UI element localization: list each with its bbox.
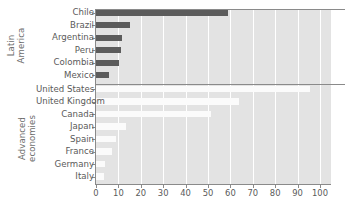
bar	[96, 98, 239, 104]
gridline	[208, 10, 209, 84]
group-label-advanced-economies: Advanced economies	[18, 101, 37, 177]
category-labels: ChileBrazilArgentinaPeruColombiaMexicoUn…	[36, 9, 94, 184]
category-label: United Kingdom	[36, 97, 94, 106]
category-label: Colombia	[36, 58, 94, 67]
category-label: Peru	[36, 46, 94, 55]
bar	[96, 72, 109, 78]
bar	[96, 22, 130, 28]
bar	[96, 148, 112, 154]
bar	[96, 60, 119, 66]
gridline	[230, 10, 231, 84]
x-axis-ticks: 0102030405060708090100	[0, 185, 331, 205]
category-label: France	[36, 147, 94, 156]
x-tick-label: 100	[305, 189, 335, 198]
category-label: Italy	[36, 172, 94, 181]
bar	[96, 161, 105, 167]
category-label: Japan	[36, 122, 94, 131]
category-label: Argentina	[36, 33, 94, 42]
gridline	[186, 10, 187, 84]
group-label-latin-america: Latin America	[7, 16, 26, 76]
group-divider-line	[95, 84, 345, 85]
gridline	[298, 10, 299, 84]
bar	[96, 111, 211, 117]
gridline	[320, 85, 321, 184]
gridline	[253, 10, 254, 84]
gridline	[253, 85, 254, 184]
bar	[96, 47, 121, 53]
bar	[96, 10, 228, 16]
gridline	[275, 10, 276, 84]
gridline	[320, 10, 321, 84]
category-label: Germany	[36, 160, 94, 169]
plot-area-latin-america	[96, 10, 331, 84]
bar	[96, 173, 104, 179]
category-label: Canada	[36, 110, 94, 119]
category-label: Brazil	[36, 21, 94, 30]
category-label: Spain	[36, 135, 94, 144]
bar	[96, 35, 122, 41]
bar	[96, 136, 116, 142]
gridline	[275, 85, 276, 184]
gridline	[141, 10, 142, 84]
category-label: Mexico	[36, 71, 94, 80]
gridline	[163, 10, 164, 84]
bar	[96, 123, 126, 129]
bar	[96, 86, 310, 92]
category-label: Chile	[36, 8, 94, 17]
gridline	[298, 85, 299, 184]
category-label: United States	[36, 85, 94, 94]
